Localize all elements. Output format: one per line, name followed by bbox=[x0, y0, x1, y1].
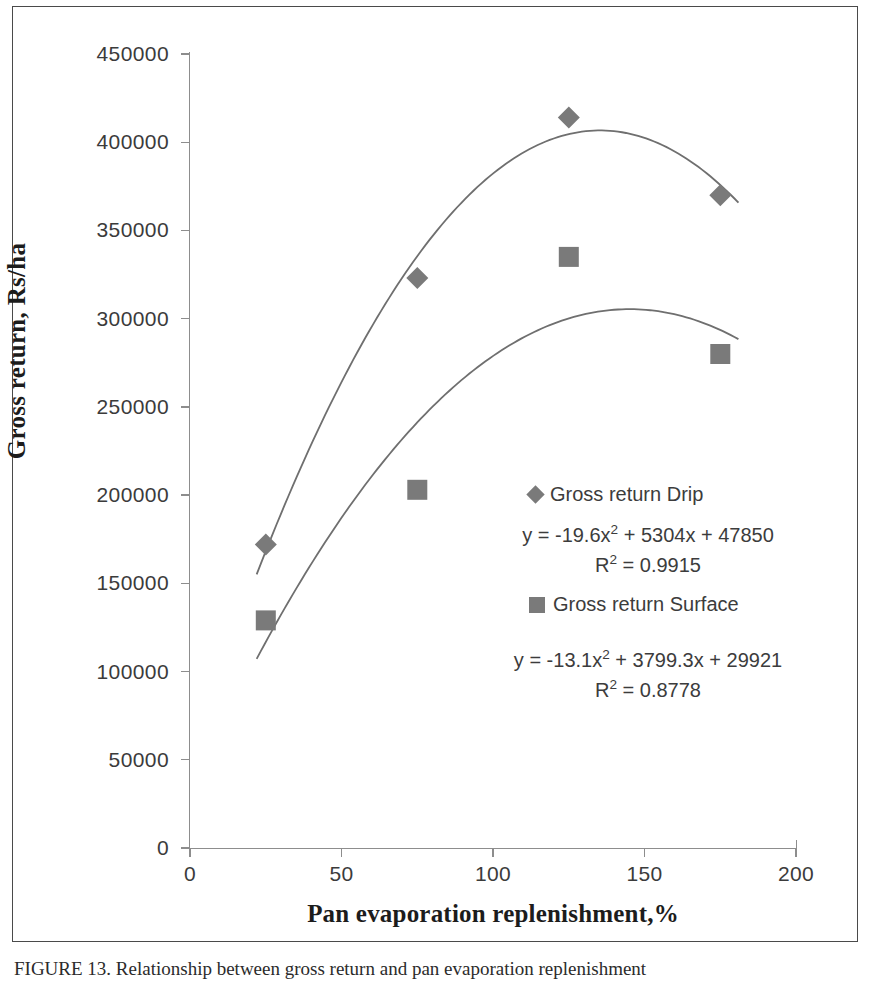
y-axis-tick bbox=[181, 406, 190, 407]
surface-equation-text: y = -13.1x2 + 3799.3x + 29921 bbox=[483, 645, 813, 675]
x-axis-title: Pan evaporation replenishment,% bbox=[163, 900, 823, 928]
legend-label-surface: Gross return Surface bbox=[553, 593, 739, 616]
diamond-marker-icon bbox=[526, 485, 544, 503]
data-point-marker bbox=[709, 184, 731, 206]
x-axis-tick bbox=[492, 848, 493, 857]
y-axis-tick-label: 300000 bbox=[49, 307, 169, 331]
x-axis-tick-label: 100 bbox=[453, 862, 533, 886]
drip-r-squared-text: R2 = 0.9915 bbox=[483, 550, 813, 580]
trendline-curves bbox=[257, 130, 739, 658]
trendline-drip bbox=[257, 130, 739, 574]
data-point-marker bbox=[256, 610, 276, 630]
y-axis-tick-label: 100000 bbox=[49, 660, 169, 684]
x-axis-tick-label: 150 bbox=[605, 862, 685, 886]
y-axis-tick-label: 450000 bbox=[49, 42, 169, 66]
y-axis-tick-label: 50000 bbox=[49, 748, 169, 772]
y-axis-tick bbox=[181, 583, 190, 584]
y-axis-tick bbox=[181, 230, 190, 231]
y-axis-tick bbox=[181, 318, 190, 319]
x-axis-tick bbox=[795, 848, 796, 857]
y-axis-tick-label: 200000 bbox=[49, 483, 169, 507]
square-marker-icon bbox=[529, 597, 545, 613]
x-axis-tick-label: 200 bbox=[756, 862, 836, 886]
y-axis-tick-label: 350000 bbox=[49, 218, 169, 242]
y-axis-tick-label: 400000 bbox=[49, 130, 169, 154]
y-axis-title: Gross return, Rs/ha bbox=[3, 151, 31, 551]
data-point-marker bbox=[406, 267, 428, 289]
legend-item-gross-return-drip[interactable]: Gross return Drip bbox=[529, 483, 703, 506]
figure-caption: FIGURE 13. Relationship between gross re… bbox=[14, 958, 714, 983]
y-axis-tick bbox=[181, 53, 190, 54]
y-axis-line bbox=[189, 52, 190, 850]
y-axis-tick bbox=[181, 671, 190, 672]
legend-label-drip: Gross return Drip bbox=[550, 483, 703, 506]
x-axis-tick bbox=[644, 848, 645, 857]
legend-item-gross-return-surface[interactable]: Gross return Surface bbox=[529, 593, 739, 616]
y-axis-tick bbox=[181, 759, 190, 760]
y-axis-tick-label: 150000 bbox=[49, 571, 169, 595]
x-axis-tick bbox=[341, 848, 342, 857]
data-point-marker bbox=[558, 107, 580, 129]
x-axis-tick-label: 50 bbox=[302, 862, 382, 886]
x-axis-tick bbox=[189, 848, 190, 857]
y-axis-tick bbox=[181, 494, 190, 495]
annotation-drip-trendline: y = -19.6x2 + 5304x + 47850 R2 = 0.9915 bbox=[483, 520, 813, 579]
y-axis-tick-label: 250000 bbox=[49, 395, 169, 419]
x-axis-tick-label: 0 bbox=[150, 862, 230, 886]
figure-frame: 0500001000001500002000002500003000003500… bbox=[12, 6, 858, 942]
data-point-marker bbox=[710, 344, 730, 364]
drip-equation-text: y = -19.6x2 + 5304x + 47850 bbox=[483, 520, 813, 550]
data-point-marker bbox=[255, 534, 277, 556]
y-axis-tick-label: 0 bbox=[49, 836, 169, 860]
data-point-marker bbox=[559, 247, 579, 267]
data-point-marker bbox=[407, 480, 427, 500]
annotation-surface-trendline: y = -13.1x2 + 3799.3x + 29921 R2 = 0.877… bbox=[483, 645, 813, 704]
y-axis-tick bbox=[181, 142, 190, 143]
surface-r-squared-text: R2 = 0.8778 bbox=[483, 675, 813, 705]
